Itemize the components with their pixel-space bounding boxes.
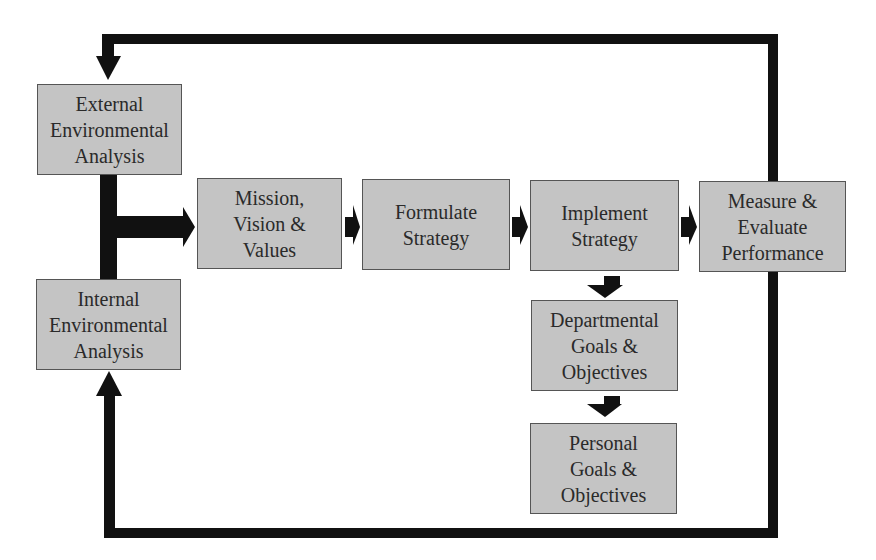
arrow-to-departmental-icon [587, 285, 623, 298]
node-label: Mission, Vision & Values [233, 185, 306, 263]
node-label: Implement Strategy [561, 200, 648, 252]
node-measure-evaluate-performance: Measure & Evaluate Performance [699, 181, 846, 272]
node-label: Personal Goals & Objectives [561, 430, 647, 508]
arrow-down-to-external-icon [96, 56, 121, 80]
node-mission-vision-values: Mission, Vision & Values [197, 178, 342, 269]
node-internal-environmental-analysis: Internal Environmental Analysis [36, 279, 181, 370]
right-feedback-line-upper [768, 34, 778, 182]
right-feedback-line-lower [768, 270, 778, 538]
node-implement-strategy: Implement Strategy [530, 180, 679, 271]
analysis-stem [100, 174, 117, 280]
bottom-feedback-line [104, 528, 778, 538]
top-feedback-line [102, 34, 778, 44]
arrow-up-to-internal-icon [96, 371, 122, 396]
node-departmental-goals-objectives: Departmental Goals & Objectives [531, 300, 678, 391]
node-label: Departmental Goals & Objectives [550, 307, 659, 385]
arrow-to-mission-icon [183, 207, 195, 247]
arrow-to-measure-icon [689, 205, 697, 245]
node-label: Measure & Evaluate Performance [721, 188, 823, 266]
arrow-to-formulate-icon [353, 205, 360, 245]
arrow-to-implement-icon [520, 205, 528, 245]
node-external-environmental-analysis: External Environmental Analysis [37, 84, 182, 175]
node-label: Internal Environmental Analysis [49, 286, 168, 364]
node-personal-goals-objectives: Personal Goals & Objectives [530, 423, 677, 514]
node-formulate-strategy: Formulate Strategy [362, 179, 510, 270]
arrow-to-personal-icon [587, 404, 622, 417]
node-label: Formulate Strategy [395, 199, 477, 251]
node-label: External Environmental Analysis [50, 91, 169, 169]
